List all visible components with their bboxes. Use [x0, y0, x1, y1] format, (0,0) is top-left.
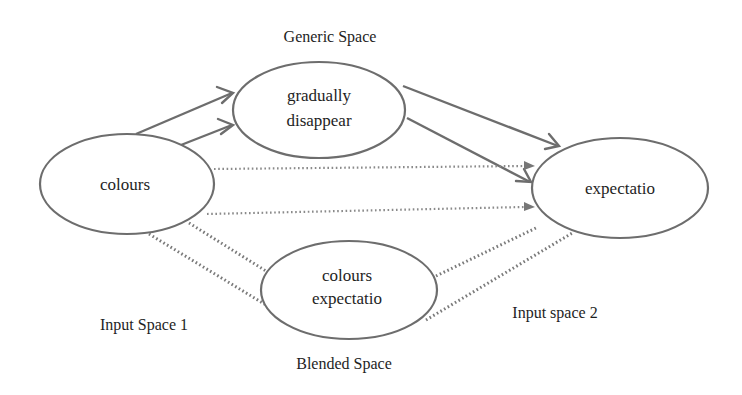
- generic-space-text-line2: disappear: [286, 111, 351, 130]
- blended-space-text-line1: colours: [322, 266, 372, 285]
- generic-space-text-line1: gradually: [287, 86, 352, 105]
- input-space-2-label: Input space 2: [512, 304, 597, 322]
- edge-input1-to-input2: [207, 161, 535, 214]
- edge-input1-to-blend: [149, 223, 266, 305]
- generic-space-ellipse: [233, 62, 405, 158]
- edge-generic-to-input2: [403, 86, 559, 182]
- blending-diagram: colours gradually disappear expectatio c…: [0, 0, 742, 395]
- blended-space-text-line2: expectatio: [312, 289, 382, 308]
- input-space-1-label: Input Space 1: [100, 316, 188, 334]
- generic-space-label: Generic Space: [284, 28, 377, 46]
- input-space-2-text: expectatio: [585, 179, 655, 198]
- blended-space-label: Blended Space: [296, 355, 392, 373]
- input-space-1-text: colours: [100, 175, 150, 194]
